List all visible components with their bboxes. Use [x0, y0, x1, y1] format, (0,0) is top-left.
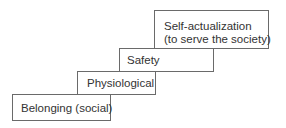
step-label: Physiological — [87, 77, 155, 90]
step-physiological: Physiological — [77, 71, 156, 95]
step-label-line: Self-actualization — [164, 20, 268, 33]
step-self-actualization: Self-actualization (to serve the society… — [154, 10, 269, 49]
step-label: Belonging (social) — [21, 102, 110, 115]
staircase-diagram: Self-actualization (to serve the society… — [0, 0, 286, 128]
step-safety: Safety — [119, 48, 214, 72]
step-belonging: Belonging (social) — [12, 94, 111, 121]
step-label: Safety — [127, 54, 213, 67]
step-label-line: (to serve the society) — [164, 33, 268, 46]
